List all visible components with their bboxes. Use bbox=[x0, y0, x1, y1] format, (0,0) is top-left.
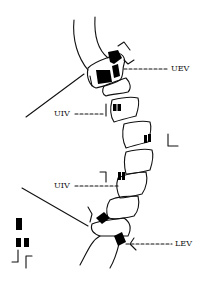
block-uiv-lower-b bbox=[122, 172, 125, 180]
vertebra-6 bbox=[117, 172, 147, 198]
arrow-up-icon bbox=[12, 250, 18, 262]
block-uiv-upper-b bbox=[118, 104, 122, 111]
single-block-icon bbox=[16, 218, 22, 230]
l-mark-icon bbox=[168, 134, 178, 146]
arrow-uev-mid bbox=[124, 60, 134, 64]
label-uiv-lower: UIV bbox=[54, 182, 70, 190]
double-block-icon-b bbox=[24, 238, 29, 247]
double-block-icon-a bbox=[16, 238, 21, 247]
vertebra-5 bbox=[125, 149, 153, 174]
arrow-lower-block bbox=[88, 207, 92, 222]
vertebra-8 bbox=[91, 218, 130, 236]
arrow-uev-top bbox=[118, 42, 130, 50]
arrow-down-icon bbox=[26, 256, 32, 268]
label-uev: UEV bbox=[171, 65, 189, 73]
reference-line-lower bbox=[22, 188, 88, 226]
block-mid-b bbox=[148, 134, 151, 142]
label-uiv-upper: UIV bbox=[54, 110, 70, 118]
block-mid-a bbox=[144, 135, 147, 143]
vertebra-7 bbox=[107, 196, 139, 219]
rib-curve-outer bbox=[74, 20, 88, 70]
vertebra-4 bbox=[123, 121, 151, 148]
pelvis-left bbox=[80, 236, 100, 265]
block-uev-top bbox=[108, 50, 122, 64]
rib-curve-inner bbox=[95, 17, 108, 58]
block-lev bbox=[114, 232, 126, 246]
label-lev: LEV bbox=[175, 240, 192, 248]
block-uev-main bbox=[96, 70, 112, 84]
block-uev-right bbox=[112, 64, 120, 78]
block-uiv-upper-a bbox=[113, 104, 117, 111]
arrow-uiv-lower bbox=[100, 172, 106, 182]
block-uiv-lower-a bbox=[118, 172, 121, 180]
